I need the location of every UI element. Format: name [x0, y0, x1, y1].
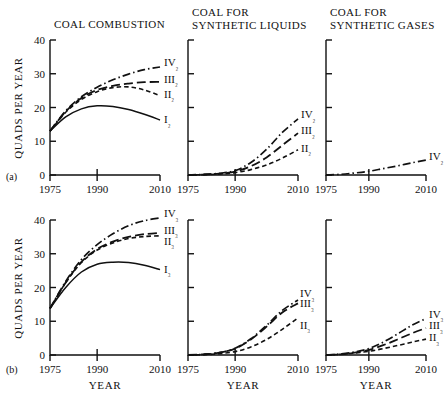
- panel-panel-b-gases: 197519902010II₃III₃IV₃: [315, 220, 444, 375]
- x-tick-label: 2010: [149, 183, 172, 195]
- x-tick-label: 1990: [358, 183, 381, 195]
- y-tick-label: 0: [40, 349, 46, 361]
- y-tick-label: 40: [34, 34, 46, 46]
- x-tick-label: 1975: [39, 363, 62, 375]
- panel-title: COAL COMBUSTION: [54, 18, 165, 30]
- curve-label-I3: I₃: [164, 263, 171, 278]
- curve-label-II3: II₃: [429, 331, 439, 346]
- curve-label-IV2: IV₂: [164, 56, 179, 71]
- curve-IV2: [50, 67, 160, 131]
- x-tick-label: 2010: [287, 183, 310, 195]
- x-tick-label: 1975: [177, 183, 200, 195]
- axis-frame: [188, 220, 298, 355]
- figure-coal-scenarios: 010203040197519902010I₂II₂III₂IV₂COAL CO…: [0, 0, 444, 397]
- curve-II3: [50, 236, 160, 309]
- curve-label-IV3: IV₃: [164, 207, 179, 222]
- curve-IV2: [188, 119, 298, 175]
- panel-panel-a-combustion: 010203040197519902010I₂II₂III₂IV₂COAL CO…: [34, 18, 179, 195]
- x-tick-label: 1990: [224, 183, 247, 195]
- axis-frame: [188, 40, 298, 175]
- x-tick-label: 1990: [224, 363, 247, 375]
- chart-canvas: 010203040197519902010I₂II₂III₂IV₂COAL CO…: [0, 0, 444, 397]
- curve-IV2: [326, 160, 426, 175]
- curve-I3: [50, 262, 160, 308]
- panel-panel-a-liquids: 197519902010II₂III₂IV₂COAL FORSYNTHETIC …: [177, 6, 316, 195]
- curve-label-III2: III₂: [164, 73, 178, 88]
- curve-label-II3: II₃: [164, 235, 174, 250]
- x-tick-label: 2010: [149, 363, 172, 375]
- panel-panel-a-gases: 197519902010IV₂COAL FORSYNTHETIC GASES: [315, 6, 444, 195]
- panel-panel-b-liquids: 197519902010II₃III₃IV₃: [177, 220, 315, 375]
- y-tick-label: 0: [40, 169, 46, 181]
- row-mark-b: (b): [6, 364, 18, 376]
- x-tick-label: 1975: [315, 363, 338, 375]
- curve-III3: [326, 328, 426, 355]
- x-tick-label: 1990: [358, 363, 381, 375]
- panel-title-line1: COAL FOR: [330, 6, 387, 18]
- curve-label-III2: III₂: [301, 124, 315, 139]
- y-tick-label: 10: [34, 315, 46, 327]
- panel-title-line2: SYNTHETIC GASES: [330, 19, 435, 31]
- curve-label-I2: I₂: [164, 113, 171, 128]
- curve-II3: [326, 339, 426, 355]
- curve-III3: [50, 233, 160, 309]
- x-tick-label: 2010: [415, 363, 438, 375]
- panel-panel-b-combustion: 010203040197519902010I₃II₃III₃IV₃: [34, 207, 179, 375]
- y-tick-label: 10: [34, 135, 46, 147]
- x-tick-label: 1990: [86, 363, 109, 375]
- x-tick-label: 2010: [415, 183, 438, 195]
- curve-label-IV2: IV₂: [429, 150, 444, 165]
- y-tick-label: 20: [34, 282, 46, 294]
- y-tick-label: 40: [34, 214, 46, 226]
- x-axis-title-2: YEAR: [360, 379, 392, 391]
- x-tick-label: 1975: [177, 363, 200, 375]
- axis-frame: [326, 220, 426, 355]
- curve-IV3: [326, 319, 426, 355]
- axis-frame: [326, 40, 426, 175]
- x-tick-label: 1990: [86, 183, 109, 195]
- curve-III2: [188, 133, 298, 175]
- row-mark-a: (a): [6, 171, 17, 183]
- y-tick-label: 30: [34, 68, 46, 80]
- y-axis-title-b: QUADS PER YEAR: [12, 237, 24, 339]
- curve-II2: [188, 150, 298, 175]
- x-tick-label: 2010: [287, 363, 310, 375]
- panel-title-line1: COAL FOR: [192, 6, 249, 18]
- y-tick-label: 20: [34, 102, 46, 114]
- curve-IV3: [188, 300, 298, 355]
- axis-frame: [50, 40, 160, 175]
- curve-label-II2: II₂: [301, 142, 311, 157]
- curve-label-II2: II₂: [164, 88, 174, 103]
- panel-title-line2: SYNTHETIC LIQUIDS: [192, 19, 307, 31]
- curve-II3: [188, 318, 298, 355]
- x-axis-title-1: YEAR: [227, 379, 259, 391]
- x-tick-label: 1975: [315, 183, 338, 195]
- y-tick-label: 30: [34, 248, 46, 260]
- curve-label-IV2: IV₂: [301, 108, 316, 123]
- y-axis-title-a: QUADS PER YEAR: [12, 57, 24, 159]
- x-tick-label: 1975: [39, 183, 62, 195]
- x-axis-title-0: YEAR: [89, 379, 121, 391]
- curve-label-II3: II₃: [300, 319, 310, 334]
